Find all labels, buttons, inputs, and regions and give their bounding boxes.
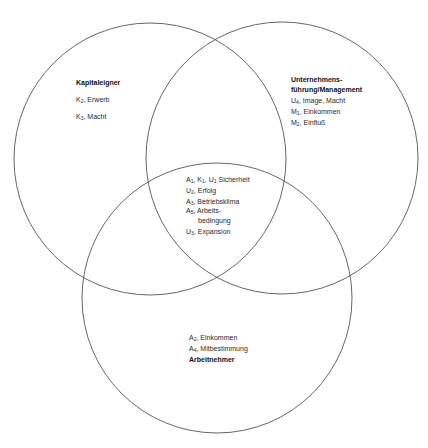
management-title-line1: Unternehmens- xyxy=(291,76,362,84)
common-item: U3, Expansion xyxy=(186,226,250,237)
kapitaleigner-label-group: Kapitaleigner K2, Erwerb K3, Macht xyxy=(76,77,120,122)
kapitaleigner-title: Kapitaleigner xyxy=(76,77,120,94)
kapitaleigner-item: K3, Macht xyxy=(76,111,120,122)
arbeitnehmer-item: A2, Einkommen xyxy=(189,332,248,343)
arbeitnehmer-item: A4, Mitbestimmung xyxy=(189,343,248,354)
management-label-group: Unternehmens- führung/Management U4, Ima… xyxy=(291,76,362,128)
common-item: A3, Betriebsklima xyxy=(186,196,250,207)
management-title-line2: führung/Management xyxy=(291,84,362,95)
kapitaleigner-item: K2, Erwerb xyxy=(76,94,120,111)
management-item: U4, Image, Macht xyxy=(291,95,362,106)
common-goals-label-group: A1, K1, U1 Sicherheit U2, Erfolg A3, Bet… xyxy=(186,174,250,237)
circle-kapitaleigner xyxy=(14,23,286,295)
arbeitnehmer-title: Arbeitnehmer xyxy=(189,354,248,365)
common-item-continuation: bedingung xyxy=(186,215,250,226)
common-item: U2, Erfolg xyxy=(186,185,250,196)
management-item: M2, Einfluß xyxy=(291,117,362,128)
management-item: M1, Einkommen xyxy=(291,106,362,117)
circle-management xyxy=(146,22,418,294)
arbeitnehmer-label-group: A2, Einkommen A4, Mitbestimmung Arbeitne… xyxy=(189,332,248,365)
common-item: A1, K1, U1 Sicherheit xyxy=(186,174,250,185)
common-item: A5, Arbeits- xyxy=(186,207,250,215)
